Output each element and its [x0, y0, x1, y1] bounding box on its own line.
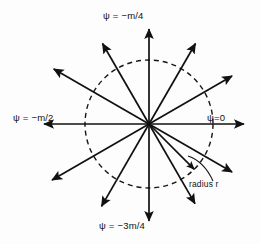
ray-060 [149, 44, 196, 125]
ray-120 [103, 44, 150, 125]
axis-label-top: ψ = −m/4 [103, 11, 144, 21]
ray-150 [54, 69, 149, 124]
radial-phase-diagram-figure: ψ = −m/4 ψ = −m/2 ψ=0 ψ = −3m/4 radius r [0, 0, 261, 244]
ray-210 [52, 124, 149, 180]
axis-label-bottom: ψ = −3m/4 [99, 221, 145, 231]
ray-240 [102, 124, 150, 206]
axis-label-left: ψ = −m/2 [13, 113, 54, 123]
radius-annotation-label: radius r [189, 180, 219, 189]
axis-label-right: ψ=0 [207, 113, 225, 123]
